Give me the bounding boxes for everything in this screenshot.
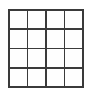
grid-cell[interactable]: [47, 30, 64, 48]
grid-cell[interactable]: [47, 11, 64, 29]
grid-cell[interactable]: [28, 49, 45, 67]
grid-cell[interactable]: [10, 30, 27, 48]
grid-cell[interactable]: [10, 11, 27, 29]
grid-cell[interactable]: [47, 49, 64, 67]
figure-canvas: [0, 0, 92, 96]
grid-cell[interactable]: [28, 11, 45, 29]
grid-cell[interactable]: [65, 30, 82, 48]
grid-diagram: [8, 9, 84, 88]
grid-cell[interactable]: [10, 69, 27, 87]
grid-cell[interactable]: [47, 69, 64, 87]
grid-cell[interactable]: [65, 11, 82, 29]
grid-cell[interactable]: [10, 49, 27, 67]
grid-cell[interactable]: [65, 69, 82, 87]
grid-cell[interactable]: [28, 69, 45, 87]
grid-cell[interactable]: [65, 49, 82, 67]
grid-cell[interactable]: [28, 30, 45, 48]
